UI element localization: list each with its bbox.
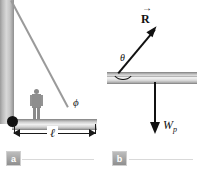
vertical-wall [0, 0, 14, 124]
weight-label-text: W [163, 118, 173, 132]
person-leg-right [37, 107, 40, 119]
length-label: ℓ [47, 126, 58, 141]
panel-a: ϕ ℓ a [0, 0, 99, 170]
person-body [32, 94, 41, 108]
person-silhouette [30, 89, 43, 119]
person-arm-left [30, 95, 32, 106]
footer-rule [22, 159, 94, 160]
panel-b: θ → R Wp b [99, 0, 198, 170]
person-leg-left [33, 107, 36, 119]
phi-angle-label: ϕ [73, 96, 79, 108]
weight-label: Wp [163, 118, 177, 134]
dimension-arrow-right [89, 129, 96, 137]
weight-label-subscript: p [173, 125, 177, 134]
footer-rule [129, 159, 193, 160]
theta-angle-label: θ [120, 52, 125, 63]
panel-a-footer: a [0, 148, 99, 170]
dimension-arrow-left [13, 129, 20, 137]
weight-force-vector [154, 82, 156, 124]
physics-figure: ϕ ℓ a θ → R Wp [0, 0, 198, 170]
panel-tag-a: a [6, 151, 21, 166]
pivot-point [7, 116, 18, 127]
panel-tag-b: b [112, 151, 127, 166]
resultant-label-text: R [141, 12, 150, 26]
panel-b-footer: b [99, 148, 198, 170]
resultant-label: → R [141, 12, 150, 27]
vector-arrow-accent: → [142, 5, 152, 11]
person-arm-right [41, 95, 43, 106]
weight-vector-arrowhead [150, 122, 160, 134]
